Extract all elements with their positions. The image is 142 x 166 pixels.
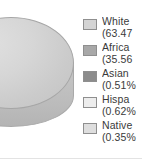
- legend-item-value: (0.51%: [102, 79, 142, 91]
- legend-item-value: (35.56: [102, 53, 142, 65]
- legend-item-value: (63.47: [102, 27, 142, 39]
- legend-item-label: Hispa: [102, 93, 142, 105]
- legend-swatch-african-american: [83, 45, 97, 56]
- pie-chart-graphic: [0, 17, 74, 137]
- legend-item[interactable]: Hispa (0.62%: [83, 94, 142, 120]
- legend-text-block: White (63.47: [102, 15, 142, 39]
- legend-item-label: Native: [102, 119, 142, 131]
- legend-swatch-asian: [83, 71, 97, 82]
- legend-item[interactable]: Asian (0.51%: [83, 68, 142, 94]
- legend-swatch-native-american: [83, 123, 97, 134]
- legend-item-value: (0.35%: [102, 131, 142, 143]
- legend-text-block: Native (0.35%: [102, 119, 142, 143]
- legend-text-block: Africa (35.56: [102, 41, 142, 65]
- pie-chart-figure: White (63.47 Africa (35.56 Asian (0.51% …: [0, 0, 142, 166]
- legend-item-label: White: [102, 15, 142, 27]
- legend-item-value: (0.62%: [102, 105, 142, 117]
- legend-swatch-hispanic: [83, 97, 97, 108]
- legend-swatch-white: [83, 19, 97, 30]
- legend-text-block: Hispa (0.62%: [102, 93, 142, 117]
- legend-item-label: Asian: [102, 67, 142, 79]
- legend-item[interactable]: White (63.47: [83, 16, 142, 42]
- legend-item[interactable]: Africa (35.56: [83, 42, 142, 68]
- legend-item-label: Africa: [102, 41, 142, 53]
- legend-text-block: Asian (0.51%: [102, 67, 142, 91]
- legend-item[interactable]: Native (0.35%: [83, 120, 142, 146]
- legend: White (63.47 Africa (35.56 Asian (0.51% …: [83, 16, 142, 146]
- horizontal-divider: [0, 158, 142, 159]
